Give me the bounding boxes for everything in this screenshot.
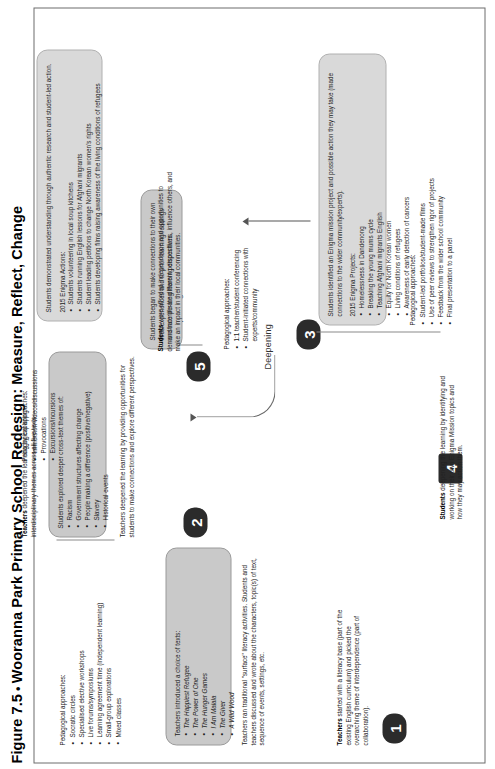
list-item: The Hunger Games <box>200 555 209 728</box>
stage-2-pedagogy-header: Pedagogical approaches: <box>20 349 29 461</box>
stage-5-action-list: Students volunteering in local soup kitc… <box>66 57 102 312</box>
stage-2-badge: 2 <box>183 507 207 537</box>
stage-1-lead-bold: Teachers <box>335 718 342 745</box>
stage-1-pedagogy-header: Pedagogical approaches: <box>58 595 67 745</box>
list-item: Living conditions of refugees <box>393 61 402 308</box>
stage-2-lead-bold: Teachers <box>20 510 27 537</box>
stage-2-panel-inner: Students explored deeper cross-text them… <box>56 359 110 528</box>
stage-2-pedagogy: Pedagogical approaches: Immersion videos… <box>20 349 57 461</box>
stage-5-lead-bold: Students <box>156 324 163 351</box>
list-item: Historical events <box>101 359 110 520</box>
list-item: Students running English lessons for Afg… <box>75 57 84 304</box>
stage-4-lead-bold: Students <box>438 492 445 519</box>
list-item: Government structures affecting change <box>74 359 83 520</box>
stage-4-pedagogy-list: Student-led portfolios/student-made film… <box>418 85 454 325</box>
stage-3-pedagogy-header: Pedagogical approaches: <box>222 209 231 349</box>
stage-1-panel-intro: Teachers introduced a choice of texts: <box>173 555 182 736</box>
stage-1-panel-footer: Teachers ran traditional "surface" liter… <box>240 547 266 745</box>
list-item: The Giver <box>218 555 227 728</box>
stage-1-pedagogy-list: Socratic circles Specialised elective wo… <box>68 595 122 745</box>
list-item: People making a difference (positive/neg… <box>83 359 92 520</box>
stage-4-panel-intro: Students identified an Enigma mission pr… <box>326 61 343 316</box>
figure-page: Figure 7.5•Wooranna Park Primary School … <box>0 0 495 769</box>
stage-3-pedagogy: Pedagogical approaches: 1:1 teacher/stud… <box>222 209 259 349</box>
stage-1-badge: 1 <box>382 713 406 743</box>
stage-1-lead: Teachers started with a literacy base (p… <box>335 595 369 745</box>
stage-5-badge: 5 <box>186 351 210 381</box>
list-item: The Power of One <box>191 555 200 728</box>
list-item: Final presentation to a panel <box>445 85 454 317</box>
stage-4-project-list: Homelessness in Dandenong Breaking the y… <box>357 61 411 316</box>
list-item: Breaking the young mums cycle <box>366 61 375 308</box>
list-item: Use of peer reviews to strengthen rigor … <box>427 85 436 317</box>
list-item: Homelessness in Dandenong <box>357 61 366 308</box>
list-item: Learning agreement time (independent lea… <box>95 595 104 737</box>
column-divider-3 <box>316 331 440 332</box>
stage-3-badge: 3 <box>296 319 320 349</box>
stage-4-panel-inner: Students identified an Enigma mission pr… <box>326 61 411 316</box>
list-item: Student-led portfolios/student-made film… <box>418 85 427 317</box>
stage-4-pedagogy: Pedagogical approaches: Student-led port… <box>408 85 454 325</box>
list-item: A Wild Wood <box>227 555 236 728</box>
figure-stage: Figure 7.5•Wooranna Park Primary School … <box>0 0 495 769</box>
flow-arrow-3-line <box>248 220 310 221</box>
list-item: Feedback from the wider school community <box>436 85 445 317</box>
list-item: Excursions/incursions <box>48 349 57 453</box>
stage-3-pedagogy-list: 1:1 teacher/student conferencing Student… <box>232 209 258 349</box>
list-item: The Happiest Refugee <box>182 555 191 728</box>
stage-1-pedagogy: Pedagogical approaches: Socratic circles… <box>58 595 123 745</box>
list-item: I Am Malala <box>209 555 218 728</box>
list-item: Provocations <box>39 349 48 453</box>
stage-4-lead: Students deepening the learning by ident… <box>438 373 464 519</box>
stage-4-pedagogy-header: Pedagogical approaches: <box>408 85 417 325</box>
stage-5-actions-header: 2015 Enigma Actions: <box>58 57 67 312</box>
stage-4-projects-header: 2015 Enigma Projects: <box>348 61 357 316</box>
list-item: Small-group explorations <box>104 595 113 737</box>
stage-2-theme-list: Racism Government structures affecting c… <box>65 359 110 528</box>
stage-5-panel: Students demonstrated understanding thro… <box>36 49 102 321</box>
stage-5-panel-inner: Students demonstrated understanding thro… <box>44 57 103 312</box>
flow-connector-3-to-4-head <box>190 413 196 421</box>
stage-2-panel-footer: Teachers deepened the learning by provid… <box>118 351 135 537</box>
list-item: Students developing films raising awaren… <box>93 57 102 304</box>
list-item: Specialised elective workshops <box>77 595 86 737</box>
deepening-label-3: Deepening <box>262 324 272 369</box>
list-item: Student leading petitions to change Nort… <box>84 57 93 304</box>
stage-1-text-list: The Happiest Refugee The Power of One Th… <box>182 555 236 736</box>
stage-2-pedagogy-list: Immersion videos/discussions Provocation… <box>30 349 57 461</box>
list-item: Equity for North Korean women <box>384 61 393 308</box>
stage-4-panel: Students identified an Enigma mission pr… <box>318 53 386 325</box>
list-item: Student-initiated connections with exper… <box>241 209 258 341</box>
list-item: Mixed classes <box>114 595 123 737</box>
stage-1-panel-inner: Teachers introduced a choice of texts: T… <box>173 555 236 736</box>
list-item: Socratic circles <box>68 595 77 737</box>
list-item: Teaching Afghani migrants English <box>375 61 384 308</box>
figure-label: Figure 7.5 <box>8 694 24 764</box>
list-item: Slavery <box>92 359 101 520</box>
stage-5-lead-rest: were afforded independence and opportuni… <box>156 171 180 351</box>
flow-arrow-3-head <box>242 217 248 225</box>
list-item: Racism <box>65 359 74 520</box>
stage-1-panel: Teachers introduced a choice of texts: T… <box>165 547 231 745</box>
stage-5-panel-intro: Students demonstrated understanding thro… <box>44 57 53 312</box>
list-item: Students volunteering in local soup kitc… <box>66 57 75 304</box>
title-bullet: • <box>9 683 24 694</box>
column-divider-1 <box>56 539 114 540</box>
list-item: 1:1 teacher/student conferencing <box>232 209 241 341</box>
list-item: Immersion videos/discussions <box>30 349 39 453</box>
stage-5-lead: Students were afforded independence and … <box>156 165 182 351</box>
list-item: Live forums/symposiums <box>86 595 95 737</box>
